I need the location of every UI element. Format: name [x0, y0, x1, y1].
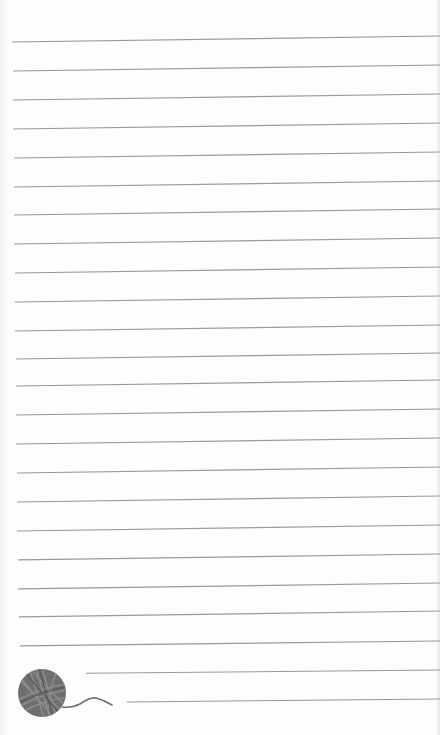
- lined-paper: [0, 0, 440, 735]
- yarn-ball-icon: [0, 0, 440, 735]
